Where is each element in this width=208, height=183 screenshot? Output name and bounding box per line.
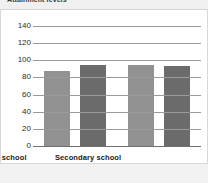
gridline [33,43,201,44]
chart-title: Attainment levels [7,0,67,3]
gridline [33,129,201,130]
y-axis-tick-label: 120 [7,39,31,47]
gridline [33,77,201,78]
chart-card: 020406080100120140Primary schoolSecondar… [0,9,208,164]
gridline [33,60,201,61]
title-band: Attainment levels [0,0,208,9]
y-axis-tick: 140 [1,22,31,30]
footer-band [0,164,208,183]
y-axis-tick-label: 20 [7,125,31,133]
y-axis-tick-label: 60 [7,91,31,99]
y-axis-tick-label: 0 [7,142,31,150]
y-axis-tick-label: 140 [7,22,31,30]
x-axis-category-label: Secondary school [55,153,121,162]
y-axis-tick-label: 80 [7,73,31,81]
chart-figure: Attainment levels 020406080100120140Prim… [0,0,208,183]
y-axis-tick: 100 [1,56,31,64]
axis-baseline [33,146,201,147]
x-axis-category-label: Primary school [0,153,27,162]
gridline [33,26,201,27]
plot-area: 020406080100120140Primary schoolSecondar… [1,10,208,165]
bar [44,71,70,146]
y-axis-tick: 20 [1,125,31,133]
y-axis-tick: 120 [1,39,31,47]
y-axis-tick-label: 100 [7,56,31,64]
gridline [33,95,201,96]
y-axis-tick: 80 [1,73,31,81]
y-axis-tick: 0 [1,142,31,150]
y-axis-tick: 60 [1,91,31,99]
gridline [33,112,201,113]
y-axis-tick-label: 40 [7,108,31,116]
y-axis-tick: 40 [1,108,31,116]
